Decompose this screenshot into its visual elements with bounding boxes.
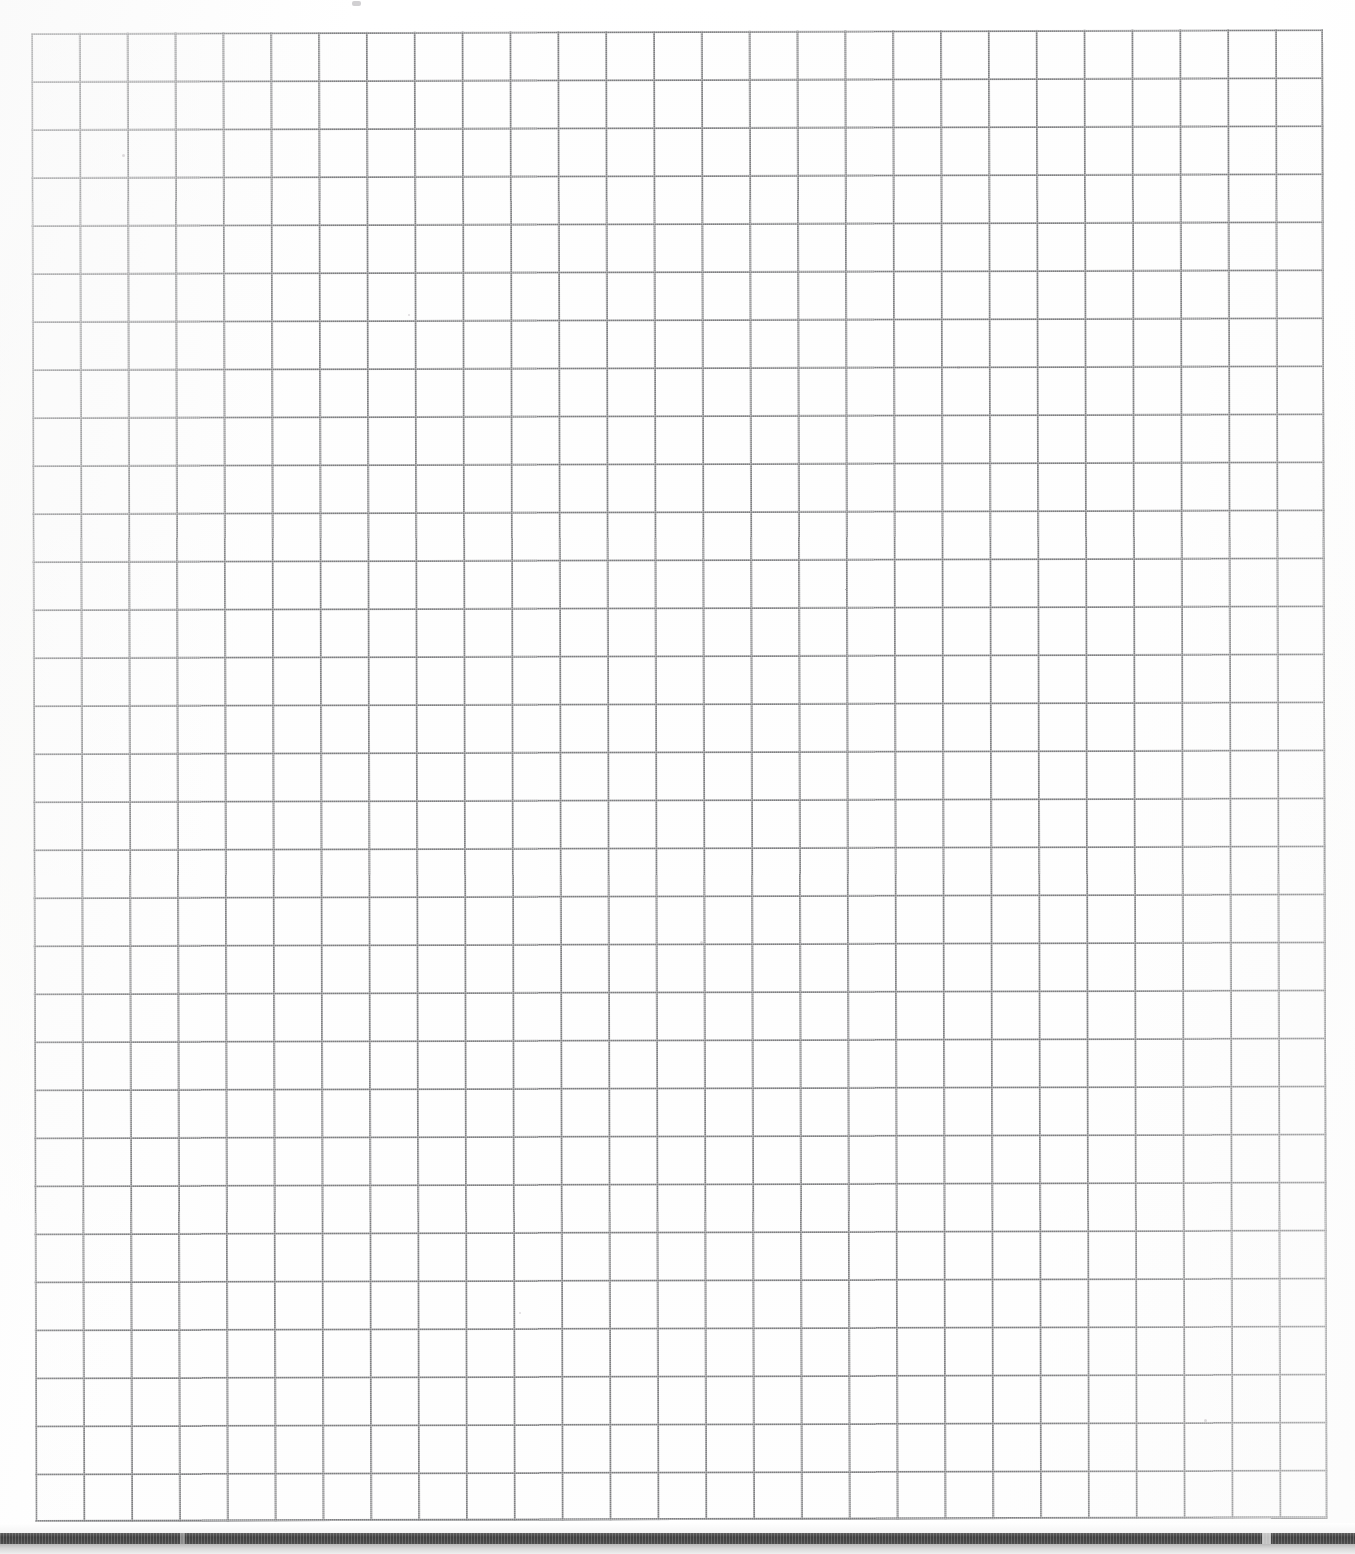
grid-ruling [31,29,1327,1522]
page-edge-gap [0,1523,1355,1533]
page-edge-nick [1262,1533,1271,1544]
page-edge-soft-band [0,1544,1355,1554]
scan-speck-top-edge [352,1,361,6]
page-edge-dark-bar [0,1533,1355,1544]
graph-paper-grid [31,29,1327,1522]
scanned-page [0,0,1355,1554]
page-edge-nick [180,1533,185,1544]
